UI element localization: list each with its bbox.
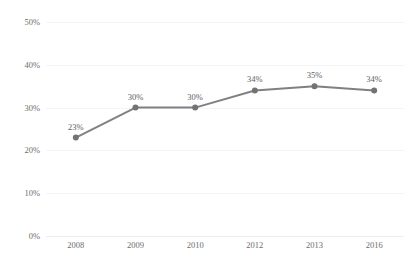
data-point-marker	[192, 105, 198, 111]
x-tick-label: 2008	[67, 241, 84, 250]
y-tick-label: 10%	[0, 189, 40, 198]
data-point-label: 23%	[68, 122, 84, 131]
y-tick-label: 20%	[0, 146, 40, 155]
x-tick-label: 2010	[187, 241, 204, 250]
data-point-label: 30%	[128, 92, 144, 101]
y-tick-label: 50%	[0, 18, 40, 27]
data-point-marker	[312, 83, 318, 89]
data-point-label: 34%	[366, 75, 382, 84]
y-axis: 0%10%20%30%40%50%	[0, 22, 40, 236]
plot-area: 23%30%30%34%35%34%	[46, 22, 404, 236]
data-point-marker	[73, 135, 79, 141]
gridline	[46, 236, 404, 237]
data-point-label: 35%	[307, 71, 323, 80]
data-point-label: 34%	[247, 75, 263, 84]
x-tick-label: 2013	[306, 241, 323, 250]
data-point-marker	[371, 87, 377, 93]
series-markers	[73, 83, 377, 140]
x-tick-label: 2009	[127, 241, 144, 250]
x-tick-label: 2012	[246, 241, 263, 250]
data-point-marker	[133, 105, 139, 111]
data-point-label: 30%	[187, 92, 203, 101]
data-point-marker	[252, 87, 258, 93]
series-line-layer	[46, 22, 404, 236]
y-tick-label: 0%	[0, 232, 40, 241]
y-tick-label: 40%	[0, 61, 40, 70]
series-polyline	[76, 86, 374, 137]
y-tick-label: 30%	[0, 103, 40, 112]
line-chart: 0%10%20%30%40%50% 23%30%30%34%35%34% 200…	[0, 0, 412, 260]
x-axis: 200820092010201220132016	[46, 241, 404, 255]
x-tick-label: 2016	[366, 241, 383, 250]
